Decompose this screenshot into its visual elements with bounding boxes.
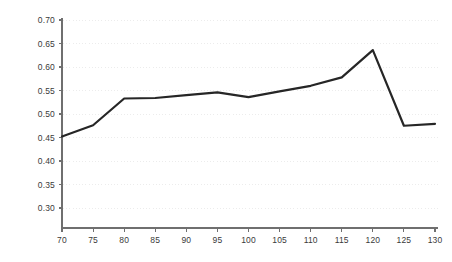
x-tick-label: 70: [57, 235, 67, 245]
x-tick-label: 100: [241, 235, 256, 245]
data-series: [62, 50, 435, 136]
y-tick-label: 0.55: [0, 86, 55, 96]
y-tick-label: 0.40: [0, 156, 55, 166]
y-tick-label: 0.35: [0, 180, 55, 190]
x-tick-label: 80: [119, 235, 129, 245]
x-tick-label: 120: [366, 235, 381, 245]
gridlines: [63, 20, 439, 208]
y-tick-label: 0.50: [0, 109, 55, 119]
x-tick-label: 125: [397, 235, 412, 245]
tick-marks: [59, 20, 436, 232]
line-chart: 0.300.350.400.450.500.550.600.650.70 707…: [0, 0, 452, 262]
x-tick-label: 75: [88, 235, 98, 245]
y-tick-label: 0.45: [0, 133, 55, 143]
x-tick-label: 95: [213, 235, 223, 245]
axes: [62, 18, 438, 228]
y-tick-label: 0.65: [0, 39, 55, 49]
x-tick-label: 115: [335, 235, 349, 245]
y-tick-label: 0.70: [0, 15, 55, 25]
plot-area: [0, 0, 452, 262]
y-tick-label: 0.60: [0, 62, 55, 72]
x-tick-label: 105: [272, 235, 287, 245]
y-tick-label: 0.30: [0, 203, 55, 213]
x-tick-label: 110: [304, 235, 318, 245]
series-line-1: [62, 50, 435, 136]
x-tick-label: 85: [150, 235, 160, 245]
x-tick-label: 130: [428, 235, 443, 245]
x-tick-label: 90: [181, 235, 191, 245]
